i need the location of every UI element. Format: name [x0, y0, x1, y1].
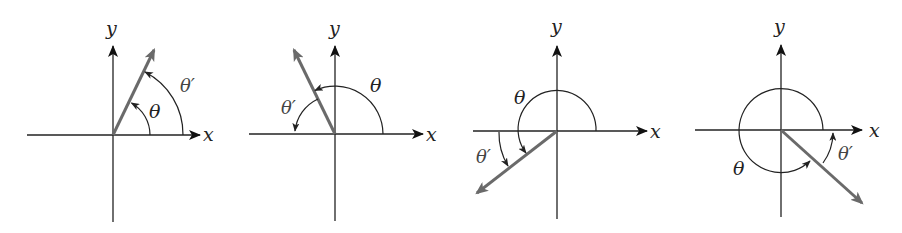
- theta-prime-label: θ′: [838, 143, 853, 164]
- panel-quadrant-1: y x θ θ′: [27, 17, 214, 222]
- y-axis-label: y: [328, 17, 340, 39]
- theta-prime-label: θ′: [180, 75, 195, 96]
- theta-label: θ: [370, 74, 382, 96]
- y-axis-label: y: [550, 15, 562, 37]
- terminal-ray: [294, 50, 335, 134]
- theta-prime-arc: [295, 99, 318, 131]
- theta-label: θ: [149, 100, 161, 122]
- panel-quadrant-3: y x θ θ′: [473, 15, 661, 219]
- y-axis-label: y: [773, 15, 785, 37]
- theta-label: θ: [733, 157, 745, 179]
- theta-prime-arc: [499, 132, 508, 166]
- theta-prime-arc: [823, 133, 833, 163]
- panel-quadrant-4: y x θ θ′: [695, 15, 880, 217]
- x-axis-label: x: [426, 123, 437, 145]
- y-axis-label: y: [105, 17, 117, 39]
- terminal-ray: [781, 130, 862, 203]
- reference-angle-figure: y x θ θ′ y x θ θ′ y x θ θ′: [0, 0, 902, 233]
- x-axis-label: x: [650, 120, 661, 142]
- theta-arc: [132, 103, 151, 135]
- theta-prime-label: θ′: [281, 97, 296, 118]
- x-axis-label: x: [869, 119, 880, 141]
- x-axis-label: x: [203, 123, 214, 145]
- theta-label: θ: [514, 86, 526, 108]
- theta-prime-label: θ′: [476, 146, 491, 167]
- panel-quadrant-2: y x θ θ′: [249, 17, 437, 221]
